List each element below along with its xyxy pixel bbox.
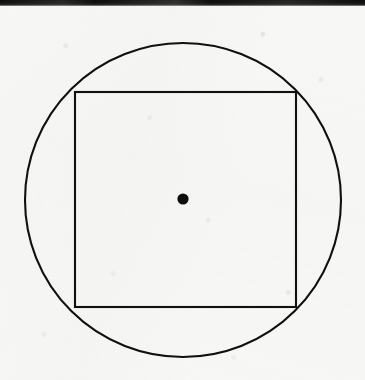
center-dot	[177, 193, 188, 204]
geometry-figure	[0, 0, 365, 380]
figure-page	[0, 0, 365, 380]
